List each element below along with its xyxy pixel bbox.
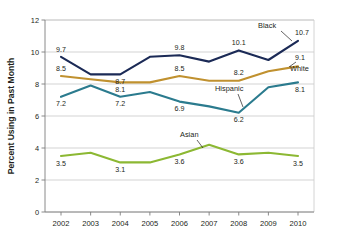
x-tick-label: 2004 — [112, 219, 129, 228]
series-label-hispanic: Hispanic — [215, 84, 244, 93]
x-tick-label: 2006 — [171, 219, 188, 228]
data-point-label: 10.7 — [295, 29, 309, 37]
y-tick-label: 10 — [31, 48, 39, 57]
y-axis-title-text: Percent Using in Past Month — [6, 58, 16, 175]
y-tick-label: 8 — [35, 80, 39, 89]
x-tick-label: 2002 — [53, 219, 70, 228]
y-axis-title: Percent Using in Past Month — [6, 58, 16, 175]
data-point-label: 7.2 — [115, 100, 125, 108]
y-tick-label: 4 — [35, 144, 39, 153]
data-point-label: 8.5 — [175, 65, 185, 73]
data-point-label: 3.6 — [234, 158, 244, 166]
data-point-label: 9.7 — [56, 46, 66, 54]
series-label-black: Black — [258, 21, 276, 30]
data-point-label: 9.1 — [295, 54, 305, 62]
data-point-label: 8.2 — [234, 69, 244, 77]
x-tick-label: 2005 — [141, 219, 158, 228]
series-label-white: White — [290, 64, 309, 73]
data-point-label: 6.2 — [234, 116, 244, 124]
x-tick-labels: 200220032004200520062007200820092010 — [53, 212, 307, 228]
data-point-label: 8.1 — [295, 86, 305, 94]
x-tick-label: 2003 — [82, 219, 99, 228]
data-point-label: 3.6 — [175, 158, 185, 166]
data-point-label: 3.1 — [115, 166, 125, 174]
data-point-label: 8.5 — [56, 65, 66, 73]
series-annotation-white: White — [289, 62, 309, 73]
line-chart: 024681012 200220032004200520062007200820… — [0, 0, 339, 240]
x-tick-label: 2010 — [290, 219, 307, 228]
x-tick-label: 2009 — [260, 219, 277, 228]
series-label-asian: Asian — [180, 130, 199, 139]
data-point-label: 6.9 — [175, 105, 185, 113]
data-point-label: 3.5 — [293, 160, 303, 168]
data-point-label: 3.5 — [56, 160, 66, 168]
data-point-label: 9.8 — [175, 44, 185, 52]
y-tick-label: 12 — [31, 16, 39, 25]
y-tick-label: 0 — [35, 208, 39, 217]
y-tick-label: 6 — [35, 112, 39, 121]
data-point-label: 10.1 — [232, 39, 246, 47]
data-point-label: 7.2 — [56, 100, 66, 108]
y-tick-labels: 024681012 — [31, 16, 45, 217]
data-point-label: 8.7 — [115, 78, 125, 86]
x-tick-label: 2008 — [230, 219, 247, 228]
y-tick-label: 2 — [35, 176, 39, 185]
x-tick-label: 2007 — [201, 219, 218, 228]
data-point-label: 8.1 — [115, 86, 125, 94]
